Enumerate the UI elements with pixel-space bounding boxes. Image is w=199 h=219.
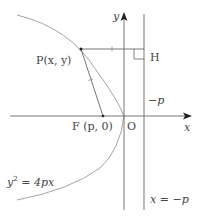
neg-p-label: −p: [148, 94, 164, 107]
right-angle-mark: [134, 49, 144, 59]
y-axis-label: y: [112, 10, 120, 23]
x-axis-label: x: [184, 121, 191, 134]
equation-label: y2 = 4px: [6, 175, 55, 189]
point-P: [80, 48, 83, 51]
directrix-label: x = −p: [150, 193, 189, 206]
point-F-label: F (p, 0): [72, 120, 113, 133]
parabola-diagram: y x O P(x, y) H F (p, 0) −p y2 = 4px x =…: [0, 0, 199, 219]
parabola-curve: [17, 15, 124, 200]
point-P-label: P(x, y): [36, 54, 71, 67]
origin-label: O: [127, 120, 136, 133]
point-F: [102, 115, 105, 118]
segment-PF: [81, 49, 103, 116]
point-H-label: H: [150, 51, 160, 64]
